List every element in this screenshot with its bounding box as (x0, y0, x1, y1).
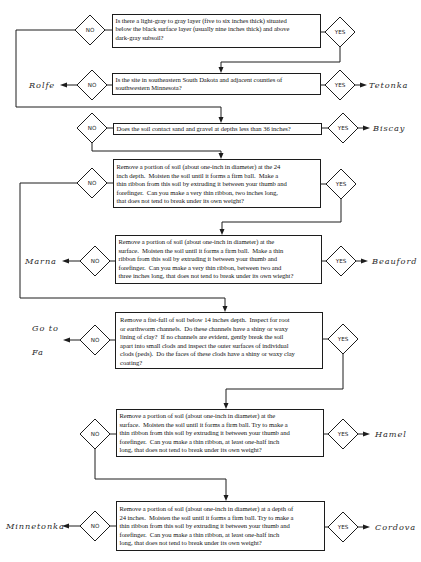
outcome-minnetonka: Minnetonka (5, 521, 65, 531)
q8-no-diamond: NO (80, 511, 110, 541)
yes-label: YES (334, 82, 346, 88)
question-box-1: Is there a light-gray to gray layer (fiv… (112, 14, 321, 48)
outcome-biscay: Biscay (372, 123, 405, 133)
soil-key-flowchart: NO YES NO YES Rolfe Tetonka (0, 0, 421, 562)
yes-label: YES (337, 125, 349, 131)
q4-no-diamond: NO (77, 168, 107, 198)
no-label: NO (91, 431, 100, 437)
yes-label: YES (334, 29, 346, 35)
q5-yes-diamond: YES (326, 246, 356, 276)
q6-yes-diamond: YES (328, 324, 358, 354)
outcome-marna: Marna (24, 256, 57, 266)
q5-no-diamond: NO (80, 246, 110, 276)
outcome-hamel: Hamel (374, 429, 407, 439)
no-label: NO (91, 337, 100, 343)
q2-yes-diamond: YES (325, 70, 355, 100)
no-label: NO (91, 258, 100, 264)
yes-label: YES (337, 431, 349, 437)
question-box-4: Remove a portion of soil (about one-inch… (113, 159, 321, 208)
question-box-2: Is the site in southeastern South Dakota… (112, 73, 321, 95)
no-label: NO (88, 180, 97, 186)
no-label: NO (91, 523, 100, 529)
yes-label: YES (335, 181, 347, 187)
q2-no-diamond: NO (77, 70, 107, 100)
outcome-goto-line1: Go to (32, 323, 59, 333)
outcome-cordova: Cordova (375, 522, 416, 532)
no-label: NO (88, 125, 97, 131)
outcome-tetonka: Tetonka (369, 80, 408, 90)
q6-no-diamond: NO (80, 325, 110, 355)
q3-yes-diamond: YES (328, 113, 358, 143)
outcome-beauford: Beauford (371, 256, 417, 266)
q1-no-diamond: NO (75, 15, 105, 45)
outcome-goto-line2: Fa (31, 347, 44, 357)
no-label: NO (86, 27, 95, 33)
q4-yes-diamond: YES (326, 169, 356, 199)
q8-yes-diamond: YES (328, 512, 358, 542)
q7-yes-diamond: YES (328, 419, 358, 449)
q3-no-diamond: NO (77, 113, 107, 143)
no-label: NO (88, 82, 97, 88)
yes-label: YES (337, 336, 349, 342)
q7-no-diamond: NO (80, 419, 110, 449)
question-box-8: Remove a portion of soil (about one-inch… (116, 501, 325, 551)
outcome-rolfe: Rolfe (28, 80, 55, 90)
question-box-3: Does the soil contact sand and gravel at… (113, 123, 322, 135)
yes-label: YES (335, 258, 347, 264)
yes-label: YES (337, 524, 349, 530)
question-box-5: Remove a portion of soil (about one-inch… (115, 235, 322, 284)
question-box-6: Remove a fist-full of soil below 14 inch… (115, 312, 323, 369)
q1-yes-diamond: YES (325, 17, 355, 47)
question-box-7: Remove a portion of soil (about one-inch… (116, 409, 324, 457)
